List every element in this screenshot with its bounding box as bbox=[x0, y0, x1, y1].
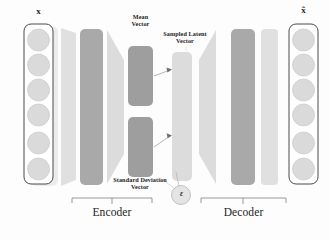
mean-vector-label: Mean Vector bbox=[113, 14, 168, 28]
output-neuron bbox=[293, 104, 315, 126]
output-neuron bbox=[293, 158, 315, 180]
sampled-latent-vector-label: Sampled Latent Vector bbox=[152, 31, 218, 45]
encoder-layer-2 bbox=[80, 29, 103, 185]
output-label: x̂ bbox=[289, 5, 318, 15]
sampled-latent-vector-bar bbox=[172, 52, 192, 181]
output-neuron bbox=[293, 29, 315, 51]
input-neuron bbox=[28, 158, 50, 180]
mean-vector-bar bbox=[128, 46, 153, 106]
encoder-bracket bbox=[72, 198, 152, 204]
input-neuron bbox=[28, 79, 50, 101]
encoder-layer-3 bbox=[107, 30, 124, 184]
decoder-layer-2 bbox=[231, 29, 255, 185]
mean-to-latent-arrowhead bbox=[167, 68, 173, 73]
decoder-label: Decoder bbox=[201, 206, 286, 219]
decoder-layer-1 bbox=[199, 30, 216, 184]
output-neuron bbox=[293, 54, 315, 76]
vae-diagram-canvas: x x̂ Mean Vector Sampled Latent Vector S… bbox=[0, 0, 329, 240]
input-label: x bbox=[24, 6, 53, 16]
output-neuron bbox=[293, 79, 315, 101]
encoder-layer-1 bbox=[61, 28, 76, 186]
input-neuron bbox=[28, 132, 50, 154]
input-neuron bbox=[28, 29, 50, 51]
encoder-label: Encoder bbox=[72, 206, 152, 219]
standard-deviation-vector-label: Standard Deviation Vector bbox=[99, 177, 181, 191]
std-deviation-vector-bar bbox=[128, 117, 153, 177]
output-neuron bbox=[293, 132, 315, 154]
decoder-bracket bbox=[201, 198, 286, 204]
epsilon-label: ε bbox=[172, 190, 191, 198]
input-neuron bbox=[28, 104, 50, 126]
input-neuron bbox=[28, 54, 50, 76]
decoder-layer-3 bbox=[261, 29, 278, 185]
